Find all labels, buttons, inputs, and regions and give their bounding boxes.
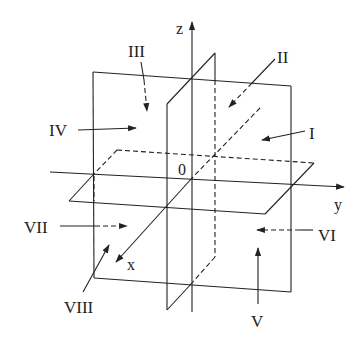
octant-III-arrow [144,80,147,111]
octant-II-arrow [229,83,252,107]
octant-label-VI: VI [318,226,336,245]
z-axis-label: z [176,20,183,37]
octant-label-V: V [251,312,264,331]
octant-label-I: I [309,124,315,143]
x-axis [116,178,192,262]
octant-IV-arrow [78,128,136,130]
y-axis-label: y [334,196,342,214]
octant-II-arrow-solid [252,59,275,83]
octant-VIII-arrow [83,245,109,292]
octant-label-III: III [128,42,145,61]
octant-label-II: II [277,48,289,67]
octant-label-IV: IV [49,121,68,140]
origin-label: 0 [178,161,186,178]
octant-III-arrow-solid [141,62,144,80]
octant-I-arrow [262,131,305,140]
octant-label-VII: VII [24,218,48,237]
xz-plane [167,53,215,310]
x-axis-label: x [127,256,135,273]
octants-diagram: z y x 0 III II IV I VII VI VIII V [0,0,364,348]
x-axis-hidden [192,108,260,178]
octant-label-VIII: VIII [64,298,94,317]
